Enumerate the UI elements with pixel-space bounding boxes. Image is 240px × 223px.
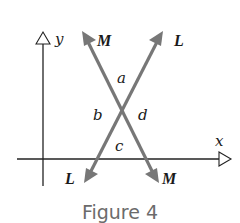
- y-axis-arrowhead-icon: [36, 32, 50, 44]
- line-m-label-bottom: M: [161, 170, 177, 187]
- y-axis: [36, 32, 50, 186]
- angle-c-label: c: [115, 137, 124, 155]
- angle-a-label: a: [117, 69, 126, 87]
- line-l-label-bottom: L: [64, 170, 75, 187]
- line-l-label-top: L: [173, 32, 184, 49]
- angle-b-label: b: [93, 106, 103, 124]
- y-axis-label: y: [54, 30, 64, 48]
- line-m-label-top: M: [96, 32, 112, 49]
- x-axis: [17, 152, 231, 166]
- figure-caption: Figure 4: [82, 201, 158, 223]
- figure-diagram: y x M M L L a b d c Figure 4: [0, 0, 240, 223]
- angle-d-label: d: [138, 106, 148, 124]
- x-axis-arrowhead-icon: [219, 152, 231, 166]
- x-axis-label: x: [215, 132, 224, 150]
